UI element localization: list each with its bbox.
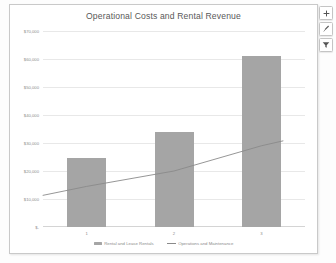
bar[interactable]: [242, 56, 281, 227]
legend-line-swatch: [167, 243, 176, 244]
chart-elements-button[interactable]: [319, 6, 333, 20]
bar[interactable]: [67, 158, 106, 227]
legend-item[interactable]: Rental and Lease Rentals: [94, 241, 154, 246]
legend-label: Operations and Maintenance: [178, 241, 233, 246]
chart-side-buttons[interactable]: [319, 6, 333, 52]
page-background: Operational Costs and Rental Revenue $70…: [0, 0, 336, 263]
brush-icon: [322, 25, 330, 33]
y-axis-tick-label: $70,000: [24, 29, 39, 34]
y-axis-tick-label: $-: [35, 225, 39, 230]
chart-legend[interactable]: Rental and Lease RentalsOperations and M…: [10, 241, 317, 246]
legend-label: Rental and Lease Rentals: [104, 241, 153, 246]
chart-object[interactable]: Operational Costs and Rental Revenue $70…: [9, 4, 318, 254]
chart-styles-button[interactable]: [319, 22, 333, 36]
legend-bar-swatch: [94, 242, 102, 245]
y-axis-tick-label: $20,000: [24, 169, 39, 174]
y-axis-tick-label: $60,000: [24, 57, 39, 62]
bar[interactable]: [155, 132, 194, 227]
y-axis-tick-label: $30,000: [24, 141, 39, 146]
chart-filters-button[interactable]: [319, 38, 333, 52]
plus-icon: [323, 10, 330, 17]
y-axis-tick-label: $40,000: [24, 113, 39, 118]
filter-icon: [322, 41, 330, 49]
x-axis-tick-label: 2: [173, 231, 175, 236]
y-axis-tick-label: $50,000: [24, 85, 39, 90]
gridline: [43, 31, 305, 32]
y-axis-tick-label: $10,000: [24, 197, 39, 202]
x-axis-tick-label: 3: [260, 231, 262, 236]
x-axis-tick-label: 1: [85, 231, 87, 236]
legend-item[interactable]: Operations and Maintenance: [167, 241, 234, 246]
chart-title: Operational Costs and Rental Revenue: [10, 11, 317, 21]
plot-area[interactable]: $70,000$60,000$50,000$40,000$30,000$20,0…: [43, 31, 305, 227]
